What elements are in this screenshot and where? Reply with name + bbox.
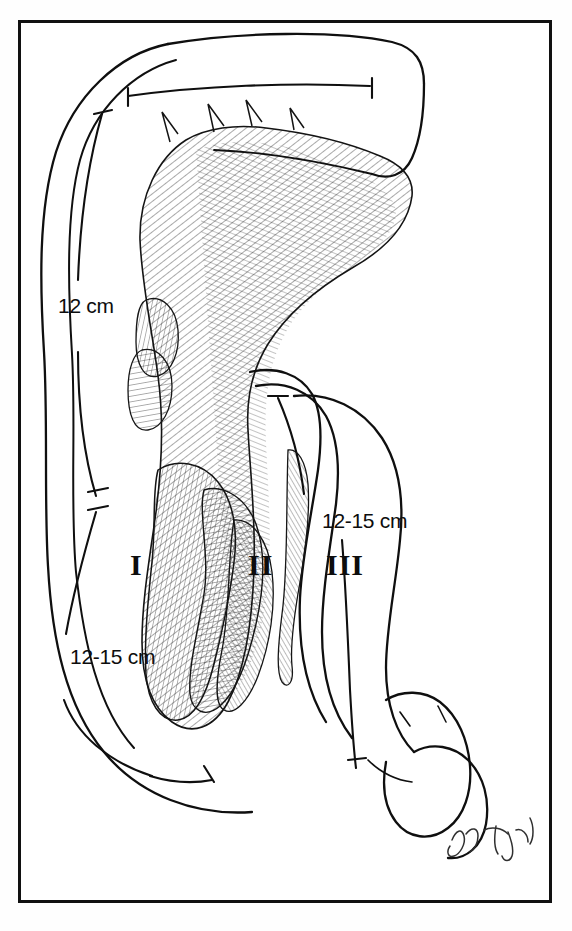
part-label-three: III [326,548,364,582]
illustration-frame [18,20,552,903]
measurement-label-12cm: 12 cm [58,294,114,318]
part-label-one: I [130,548,143,582]
illustration-page: 12 cm 12-15 cm 12-15 cm I II III [0,0,572,931]
measurement-label-1215-right: 12-15 cm [322,509,407,533]
measurement-label-1215-left: 12-15 cm [70,645,155,669]
part-label-two: II [248,548,273,582]
